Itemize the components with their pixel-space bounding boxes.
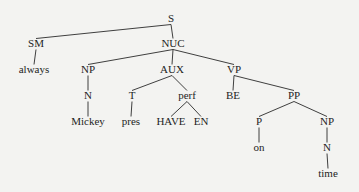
node-P: P: [256, 115, 262, 127]
node-NP-subject: NP: [81, 63, 95, 75]
node-NUC: NUC: [161, 37, 184, 49]
node-T: T: [129, 89, 136, 101]
node-EN: EN: [194, 115, 209, 127]
node-always: always: [19, 63, 50, 75]
node-time: time: [318, 167, 338, 179]
tree-labels: S SM always NUC NP N Mickey AUX T pres p…: [19, 12, 338, 179]
node-NP-object: NP: [320, 115, 334, 127]
edge-S-SM: [36, 25, 171, 39]
node-HAVE: HAVE: [156, 115, 185, 127]
edge-PP-P: [259, 102, 294, 117]
node-pres: pres: [122, 115, 140, 127]
node-N-subject: N: [84, 89, 92, 101]
edge-AUX-T: [132, 76, 172, 91]
node-AUX: AUX: [160, 63, 184, 75]
syntax-tree-diagram: S SM always NUC NP N Mickey AUX T pres p…: [0, 0, 359, 192]
edge-VP-PP: [234, 76, 294, 91]
node-N-object: N: [323, 141, 331, 153]
node-PP: PP: [288, 89, 300, 101]
node-Mickey: Mickey: [71, 115, 105, 127]
node-perf: perf: [178, 89, 196, 101]
node-S: S: [168, 12, 174, 24]
node-on: on: [254, 141, 266, 153]
node-BE: BE: [226, 89, 240, 101]
node-VP: VP: [227, 63, 241, 75]
node-SM: SM: [28, 37, 44, 49]
